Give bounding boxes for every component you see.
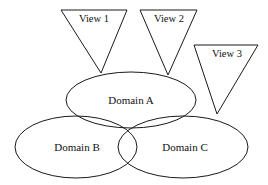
view-2-label: View 2 (154, 13, 184, 24)
view-3-label: View 3 (212, 48, 242, 59)
domain-a-label: Domain A (108, 94, 154, 106)
views-domains-diagram: View 1 View 2 View 3 Domain A Domain B D… (0, 0, 268, 185)
view-2[interactable]: View 2 (140, 10, 197, 75)
domain-c-label: Domain C (162, 141, 208, 153)
diagram-canvas: View 1 View 2 View 3 Domain A Domain B D… (0, 0, 268, 185)
views-group: View 1 View 2 View 3 (61, 10, 258, 114)
domain-b-label: Domain B (54, 141, 100, 153)
view-1[interactable]: View 1 (61, 10, 127, 73)
view-1-label: View 1 (79, 13, 109, 24)
view-3[interactable]: View 3 (194, 45, 258, 114)
